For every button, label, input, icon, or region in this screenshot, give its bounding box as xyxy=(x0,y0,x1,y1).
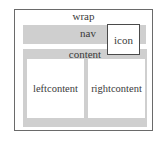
icon-box: icon xyxy=(107,24,140,55)
rightcontent-box: rightcontent xyxy=(88,59,145,118)
rightcontent-label: rightcontent xyxy=(91,83,142,94)
wrap-label: wrap xyxy=(14,9,153,24)
icon-label: icon xyxy=(114,34,133,46)
leftcontent-label: leftcontent xyxy=(33,83,78,94)
leftcontent-box: leftcontent xyxy=(27,59,84,118)
